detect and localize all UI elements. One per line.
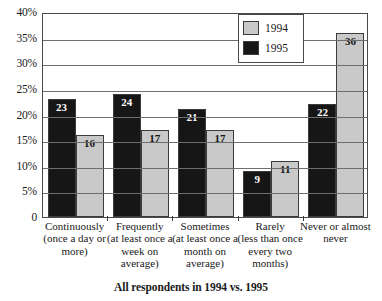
bar-value-label: 9 <box>254 173 260 185</box>
x-category-label: Sometimes(at least once a month on avera… <box>168 220 241 270</box>
legend-label: 1994 <box>265 22 288 34</box>
x-category-main: Rarely <box>234 220 307 232</box>
x-category-sub: (once a day or more) <box>38 232 111 257</box>
x-category-main: Continuously <box>38 220 111 232</box>
y-tick-label: 30% <box>17 59 37 71</box>
x-category-label: Never or almost never <box>299 220 372 245</box>
plot-area: 2316241721179112236 <box>42 13 368 218</box>
gridline <box>43 142 367 143</box>
x-category-label: Frequently(at least once a week on avera… <box>103 220 176 270</box>
legend-item-1994: 1994 <box>243 18 299 38</box>
gridline <box>43 193 367 194</box>
chart-caption: All respondents in 1994 vs. 1995 <box>0 281 382 294</box>
y-tick-label: 0 <box>31 212 37 224</box>
x-category-main: Sometimes <box>168 220 241 232</box>
bar-1994-3: 11 <box>271 161 299 217</box>
y-tick-label: 10% <box>17 161 37 173</box>
bar-1994-4: 36 <box>336 33 364 218</box>
bar-group: 2417 <box>108 14 173 217</box>
y-tick-label: 15% <box>17 135 37 147</box>
legend-label: 1995 <box>265 42 288 54</box>
bar-1995-1: 24 <box>113 94 141 217</box>
bar-value-label: 24 <box>121 96 132 108</box>
legend-swatch-icon <box>243 41 259 55</box>
bar-1994-0: 16 <box>76 135 104 217</box>
bar-value-label: 23 <box>56 101 67 113</box>
gridline <box>43 40 367 41</box>
x-tick <box>238 216 239 221</box>
y-tick-label: 35% <box>17 33 37 45</box>
bar-group: 2316 <box>43 14 108 217</box>
bar-group: 2117 <box>173 14 238 217</box>
x-category-label: Continuously(once a day or more) <box>38 220 111 257</box>
x-category-sub: (at least once a week on average) <box>103 232 176 269</box>
y-tick-label: 25% <box>17 84 37 96</box>
gridline <box>43 91 367 92</box>
bar-chart: 05%10%15%20%25%30%35%40% 231624172117911… <box>0 0 382 301</box>
x-tick <box>107 216 108 221</box>
y-axis: 05%10%15%20%25%30%35%40% <box>0 13 40 218</box>
y-tick-label: 20% <box>17 110 37 122</box>
legend: 19941995 <box>238 14 304 63</box>
x-tick <box>303 216 304 221</box>
bar-1995-2: 21 <box>178 109 206 217</box>
bars-layer: 2316241721179112236 <box>43 14 367 217</box>
gridline <box>43 117 367 118</box>
y-tick-label: 5% <box>22 187 37 199</box>
y-tick-label: 40% <box>17 7 37 19</box>
x-category-main: Frequently <box>103 220 176 232</box>
gridline <box>43 65 367 66</box>
x-category-label: Rarely(less than once every two months) <box>234 220 307 270</box>
x-tick <box>172 216 173 221</box>
x-category-sub: (less than once every two months) <box>234 232 307 269</box>
bar-1995-4: 22 <box>308 104 336 217</box>
x-axis-labels: Continuously(once a day or more)Frequent… <box>42 220 368 276</box>
legend-swatch-icon <box>243 21 259 35</box>
x-category-main: Never or almost never <box>299 220 372 245</box>
bar-group: 2236 <box>304 14 368 217</box>
x-category-sub: (at least once a month on average) <box>168 232 241 269</box>
legend-item-1995: 1995 <box>243 38 299 58</box>
gridline <box>43 168 367 169</box>
